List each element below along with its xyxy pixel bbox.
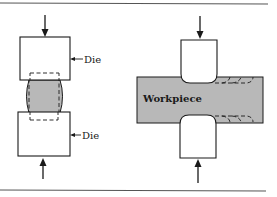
left-panel-upsetting: Die Die [18, 15, 101, 179]
bottom-die-callout: Die [70, 130, 99, 141]
right-panel-drawing: Workpiece [137, 16, 263, 183]
top-die [20, 37, 70, 80]
forging-diagram: Die Die Workpiece [0, 0, 277, 197]
bottom-die [18, 112, 70, 156]
top-force-arrow-right-icon [197, 16, 204, 39]
bottom-force-arrow-icon [40, 158, 47, 179]
top-force-arrow-icon [42, 15, 49, 37]
bottom-die-label: Die [82, 130, 99, 141]
workpiece-label: Workpiece [142, 93, 202, 104]
top-rule [0, 3, 268, 4]
upset-workpiece [27, 80, 63, 113]
bottom-force-arrow-right-icon [195, 159, 202, 183]
top-die-callout: Die [70, 54, 101, 65]
top-die-right [181, 40, 217, 83]
bottom-rule [0, 190, 266, 191]
bottom-die-right [180, 115, 216, 158]
top-die-label: Die [84, 54, 101, 65]
